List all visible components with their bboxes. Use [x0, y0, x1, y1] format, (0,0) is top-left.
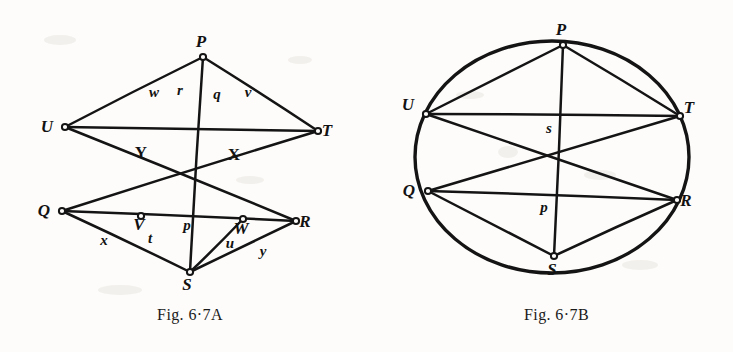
edge-QT	[62, 131, 318, 211]
vertex-label-R: R	[298, 212, 310, 231]
vertex-label-U: U	[402, 95, 415, 114]
edge-UT	[426, 114, 680, 116]
segment-label-q: q	[213, 86, 221, 102]
vertex-marker-P	[200, 54, 206, 60]
segment-label-p: p	[538, 199, 548, 215]
vertex-label-R: R	[679, 191, 691, 210]
vertex-marker-P	[560, 42, 566, 48]
edge-QR	[428, 191, 677, 200]
vertex-label-P: P	[555, 20, 567, 39]
vertex-marker-Q	[59, 208, 65, 214]
paper-smudge	[288, 56, 312, 64]
segment-label-s: s	[545, 120, 552, 136]
vertex-label-P: P	[195, 32, 207, 51]
vertex-label-Q: Q	[38, 201, 50, 220]
segment-label-y: y	[258, 243, 267, 259]
figure-b-caption: Fig. 6·7B	[380, 306, 733, 324]
figure-a-drawing: XYwrqvxtpuyVWPUTQRS	[0, 0, 380, 310]
vertex-marker-U	[423, 111, 429, 117]
intersection-label-Y: Y	[135, 143, 147, 162]
vertex-marker-Q	[425, 188, 431, 194]
figure-6-7b: spPUTQRS Fig. 6·7B	[380, 0, 733, 352]
intersection-label-X: X	[228, 145, 241, 164]
edge-UT	[65, 127, 318, 131]
segment-label-r: r	[177, 82, 183, 98]
segment-label-t: t	[148, 230, 153, 246]
segment-label-v: v	[245, 84, 252, 100]
vertex-marker-R	[674, 197, 680, 203]
vertex-label-T: T	[684, 98, 695, 117]
edge-PS	[190, 57, 203, 272]
paper-smudge	[236, 176, 264, 184]
vertex-marker-T	[315, 128, 321, 134]
vertex-label-S: S	[182, 275, 191, 294]
point-label-V: V	[133, 215, 146, 234]
vertex-marker-R	[293, 218, 299, 224]
figure-a-caption: Fig. 6·7A	[0, 306, 380, 324]
segment-label-w: w	[149, 84, 160, 100]
paper-smudge	[98, 285, 142, 295]
paper-smudge	[44, 35, 76, 45]
vertex-label-T: T	[322, 121, 333, 140]
point-label-W: W	[233, 219, 250, 238]
vertex-label-S: S	[547, 260, 556, 279]
segment-label-p: p	[181, 217, 191, 233]
edge-UP	[426, 45, 563, 114]
figure-page: XYwrqvxtpuyVWPUTQRS Fig. 6·7A spPUTQRS F…	[0, 0, 733, 352]
vertex-marker-T	[677, 113, 683, 119]
edge-QS	[428, 191, 554, 256]
vertex-marker-S	[551, 253, 557, 259]
figure-b-drawing: spPUTQRS	[380, 0, 733, 310]
vertex-marker-U	[62, 124, 68, 130]
segment-label-x: x	[99, 232, 108, 248]
vertex-label-Q: Q	[403, 181, 415, 200]
paper-smudge	[622, 260, 658, 270]
vertex-label-U: U	[41, 117, 54, 136]
figure-6-7a: XYwrqvxtpuyVWPUTQRS Fig. 6·7A	[0, 0, 380, 352]
edge-QS	[62, 211, 190, 272]
paper-smudge	[498, 146, 518, 158]
edge-QR	[62, 211, 296, 221]
